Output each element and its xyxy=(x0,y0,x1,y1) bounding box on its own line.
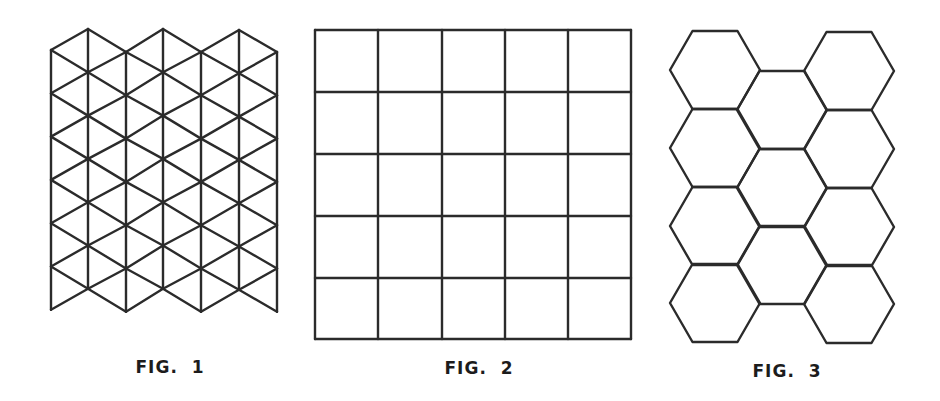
diagonal-line xyxy=(88,225,126,245)
diagonal-line xyxy=(239,160,277,182)
fig3-hexagonal-tiling xyxy=(670,31,894,343)
diagonal-line xyxy=(126,52,163,72)
diagonal-line xyxy=(126,72,163,95)
diagonal-line xyxy=(126,289,163,312)
diagonal-line xyxy=(88,269,126,289)
diagonal-line xyxy=(126,269,163,289)
hexagon-cell xyxy=(670,264,760,342)
diagonal-line xyxy=(163,182,201,202)
diagonal-line xyxy=(201,52,239,73)
diagonal-line xyxy=(163,289,201,312)
diagonal-line xyxy=(51,72,88,93)
diagonal-line xyxy=(239,139,277,160)
diagonal-line xyxy=(163,269,201,289)
diagonal-line xyxy=(126,246,163,269)
diagonal-line xyxy=(239,269,277,290)
figure-plate: FIG. 1 FIG. 2 FIG. 3 xyxy=(0,0,940,401)
diagonal-line xyxy=(163,95,201,115)
diagonal-line xyxy=(51,159,88,180)
hexagon-cell xyxy=(804,188,894,266)
diagonal-line xyxy=(88,159,126,182)
hexagon-cell xyxy=(804,32,894,110)
diagonal-line xyxy=(126,225,163,245)
diagonal-line xyxy=(163,72,201,95)
diagonal-line xyxy=(239,247,277,269)
diagonal-line xyxy=(201,160,239,182)
hexagon-cell xyxy=(670,109,760,187)
fig3-caption: FIG. 3 xyxy=(752,361,821,381)
diagonal-line xyxy=(239,30,277,52)
diagonal-line xyxy=(201,117,239,139)
diagonal-line xyxy=(201,139,239,160)
diagonal-line xyxy=(163,159,201,182)
diagonal-line xyxy=(88,182,126,202)
hexagon-cell xyxy=(804,265,894,343)
diagonal-line xyxy=(201,95,239,116)
diagonal-line xyxy=(201,290,239,312)
fig2-caption: FIG. 2 xyxy=(444,358,513,378)
diagonal-line xyxy=(201,30,239,52)
diagonal-line xyxy=(239,182,277,203)
hexagon-cell xyxy=(670,31,760,109)
diagonal-line xyxy=(239,203,277,225)
diagonal-line xyxy=(201,225,239,246)
diagonal-line xyxy=(88,289,126,312)
diagonal-line xyxy=(163,29,201,52)
diagonal-line xyxy=(51,50,88,72)
fig1-caption: FIG. 1 xyxy=(135,357,204,377)
diagonal-line xyxy=(51,137,88,159)
diagonal-line xyxy=(51,289,88,310)
diagonal-line xyxy=(88,246,126,269)
diagonal-line xyxy=(126,182,163,202)
diagonal-line xyxy=(163,202,201,225)
diagonal-line xyxy=(126,116,163,139)
diagonal-line xyxy=(51,93,88,115)
hexagon-cell xyxy=(737,71,827,149)
diagonal-line xyxy=(51,29,88,50)
fig2-square-grid xyxy=(315,30,631,339)
diagonal-line xyxy=(88,139,126,159)
diagonal-line xyxy=(201,247,239,269)
diagonal-line xyxy=(126,95,163,115)
diagonal-line xyxy=(88,29,126,52)
hexagon-cell xyxy=(804,110,894,188)
diagonal-line xyxy=(239,225,277,246)
diagonal-line xyxy=(239,73,277,95)
diagonal-line xyxy=(88,116,126,139)
hexagon-cell xyxy=(737,226,827,304)
diagonal-line xyxy=(51,202,88,223)
diagonal-line xyxy=(126,139,163,159)
diagonal-line xyxy=(126,29,163,52)
diagonal-line xyxy=(163,246,201,269)
hexagon-cell xyxy=(670,187,760,265)
diagonal-line xyxy=(51,223,88,245)
diagonal-line xyxy=(126,202,163,225)
diagonal-line xyxy=(126,159,163,182)
diagonal-line xyxy=(239,290,277,312)
diagonal-line xyxy=(88,95,126,115)
diagonal-line xyxy=(163,139,201,159)
hexagon-cell xyxy=(737,149,827,227)
diagonal-line xyxy=(201,182,239,203)
diagonal-line xyxy=(88,72,126,95)
diagonal-line xyxy=(239,95,277,116)
diagonal-line xyxy=(163,225,201,245)
diagonal-line xyxy=(51,246,88,267)
diagonal-line xyxy=(163,116,201,139)
diagonal-line xyxy=(201,73,239,95)
diagonal-line xyxy=(239,52,277,73)
diagonal-line xyxy=(51,180,88,202)
diagonal-line xyxy=(201,203,239,225)
diagonal-line xyxy=(51,116,88,137)
diagonal-line xyxy=(51,267,88,289)
diagonal-line xyxy=(88,202,126,225)
fig1-triangular-grid xyxy=(51,29,277,312)
diagonal-line xyxy=(239,117,277,139)
diagonal-line xyxy=(163,52,201,72)
diagonal-line xyxy=(201,269,239,290)
figure-drawing xyxy=(0,0,940,401)
diagonal-line xyxy=(88,52,126,72)
